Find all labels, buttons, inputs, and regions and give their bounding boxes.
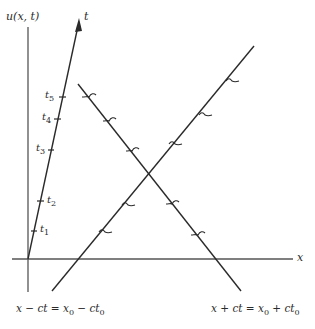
tick-label-t1: t1 <box>40 224 49 237</box>
left-characteristic-line <box>52 46 254 291</box>
x-axis-label: x <box>297 252 303 263</box>
tick-label-t3: t3 <box>36 143 45 156</box>
left-characteristic-equation: x − ct = x0 − ct0 <box>16 303 105 317</box>
tick-label-t2: t2 <box>47 195 56 208</box>
diagram-canvas <box>0 0 315 329</box>
t-axis-label: t <box>84 11 88 22</box>
u-axis-label: u(x, t) <box>6 11 39 22</box>
t-axis <box>28 18 82 259</box>
right-characteristic-line <box>78 84 241 291</box>
tick-label-t4: t4 <box>42 112 51 125</box>
tick-label-t5: t5 <box>45 90 54 103</box>
right-characteristic-equation: x + ct = x0 + ct0 <box>211 303 300 317</box>
t-axis-arrowhead-icon <box>75 18 82 32</box>
